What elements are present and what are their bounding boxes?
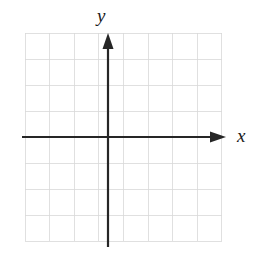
y-axis-arrowhead-icon (103, 33, 114, 49)
coordinate-plane-figure: y x (0, 0, 261, 259)
x-axis (22, 132, 226, 143)
x-axis-label: x (237, 126, 245, 145)
coordinate-plane-svg (0, 0, 261, 259)
y-axis-label: y (97, 6, 105, 25)
x-axis-arrowhead-icon (210, 132, 226, 143)
